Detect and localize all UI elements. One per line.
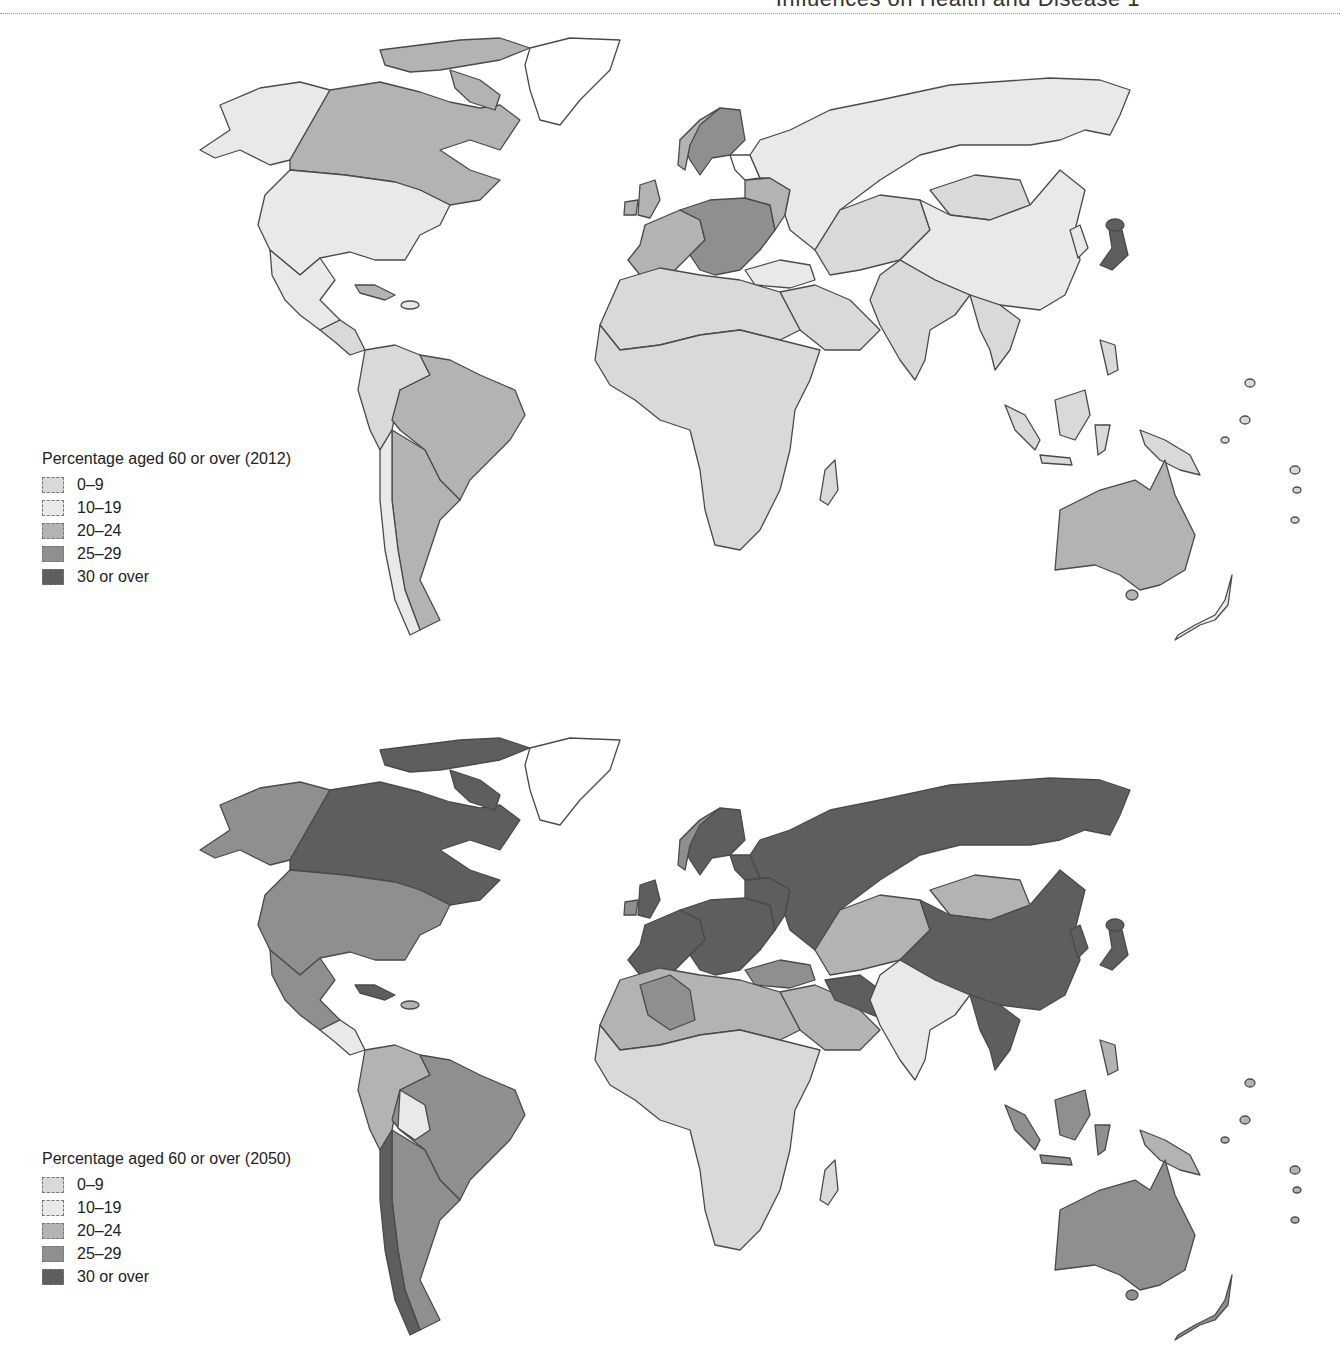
- region-borneo: [1055, 390, 1090, 440]
- region-sulawesi: [1095, 1125, 1110, 1155]
- legend-item-30-over: 30 or over: [42, 566, 291, 587]
- region-philippines: [1100, 1040, 1118, 1075]
- region-new-zealand: [1175, 575, 1232, 640]
- legend-swatch: [42, 546, 64, 562]
- legend-item-0-9: 0–9: [42, 1174, 291, 1195]
- region-hokkaido: [1106, 919, 1124, 931]
- legend-item-25-29: 25–29: [42, 543, 291, 564]
- region-caribbean-island: [401, 301, 419, 309]
- header-rule: [0, 13, 1340, 14]
- map-2012: Percentage aged 60 or over (2012) 0–9 10…: [0, 30, 1340, 690]
- region-hokkaido: [1106, 219, 1124, 231]
- region-cuba: [355, 985, 395, 1000]
- region-madagascar: [820, 460, 838, 505]
- legend-2050: Percentage aged 60 or over (2050) 0–9 10…: [42, 1150, 291, 1289]
- legend-label: 20–24: [77, 1222, 122, 1240]
- legend-swatch: [42, 500, 64, 516]
- legend-label: 10–19: [77, 499, 122, 517]
- page-header-title: Influences on Health and Disease 1: [776, 0, 1140, 12]
- legend-item-20-24: 20–24: [42, 1220, 291, 1241]
- region-pacific-island: [1245, 1079, 1255, 1087]
- region-australia: [1055, 1160, 1195, 1290]
- legend-title: Percentage aged 60 or over (2012): [42, 450, 291, 468]
- legend-label: 20–24: [77, 522, 122, 540]
- legend-label: 30 or over: [77, 568, 149, 586]
- legend-item-20-24: 20–24: [42, 520, 291, 541]
- region-greenland: [525, 738, 620, 825]
- region-pacific-island: [1291, 517, 1299, 523]
- legend-swatch: [42, 569, 64, 585]
- region-turkey: [745, 260, 815, 288]
- region-sub-saharan-africa: [595, 1025, 820, 1250]
- region-new-zealand: [1175, 1275, 1232, 1340]
- legend-label: 10–19: [77, 1199, 122, 1217]
- region-canada-arctic-islands: [380, 738, 530, 772]
- legend-item-30-over: 30 or over: [42, 1266, 291, 1287]
- region-new-guinea: [1140, 430, 1200, 475]
- region-uk: [638, 880, 660, 918]
- legend-swatch: [42, 1269, 64, 1285]
- region-sumatra: [1005, 405, 1040, 450]
- legend-swatch: [42, 1246, 64, 1262]
- region-tasmania: [1126, 590, 1138, 600]
- legend-swatch: [42, 1200, 64, 1216]
- region-pacific-island: [1221, 1137, 1229, 1143]
- region-pacific-island: [1290, 1166, 1300, 1174]
- region-java: [1040, 1155, 1072, 1165]
- region-pacific-island: [1290, 466, 1300, 474]
- region-pacific-island: [1221, 437, 1229, 443]
- region-australia: [1055, 460, 1195, 590]
- region-western-europe: [628, 210, 705, 275]
- region-java: [1040, 455, 1072, 465]
- region-tasmania: [1126, 1290, 1138, 1300]
- legend-item-10-19: 10–19: [42, 1197, 291, 1218]
- region-greenland: [525, 38, 620, 125]
- legend-item-25-29: 25–29: [42, 1243, 291, 1264]
- legend-label: 25–29: [77, 545, 122, 563]
- legend-swatch: [42, 1177, 64, 1193]
- legend-title: Percentage aged 60 or over (2050): [42, 1150, 291, 1168]
- legend-label: 0–9: [77, 1176, 104, 1194]
- region-sub-saharan-africa: [595, 325, 820, 550]
- map-2050: Percentage aged 60 or over (2050) 0–9 10…: [0, 730, 1340, 1348]
- legend-label: 25–29: [77, 1245, 122, 1263]
- region-pacific-island: [1240, 1116, 1250, 1124]
- region-western-europe: [628, 910, 705, 975]
- legend-item-0-9: 0–9: [42, 474, 291, 495]
- region-pacific-island: [1293, 1187, 1301, 1193]
- legend-label: 30 or over: [77, 1268, 149, 1286]
- region-borneo: [1055, 1090, 1090, 1140]
- region-pacific-island: [1240, 416, 1250, 424]
- region-pacific-island: [1293, 487, 1301, 493]
- region-madagascar: [820, 1160, 838, 1205]
- region-new-guinea: [1140, 1130, 1200, 1175]
- legend-swatch: [42, 1223, 64, 1239]
- region-uk: [638, 180, 660, 218]
- region-sulawesi: [1095, 425, 1110, 455]
- region-ireland: [624, 900, 638, 915]
- legend-2012: Percentage aged 60 or over (2012) 0–9 10…: [42, 450, 291, 589]
- region-philippines: [1100, 340, 1118, 375]
- region-caribbean-island: [401, 1001, 419, 1009]
- region-ireland: [624, 200, 638, 215]
- region-canada-arctic-islands: [380, 38, 530, 72]
- region-pacific-island: [1245, 379, 1255, 387]
- region-turkey: [745, 960, 815, 988]
- legend-item-10-19: 10–19: [42, 497, 291, 518]
- legend-label: 0–9: [77, 476, 104, 494]
- region-cuba: [355, 285, 395, 300]
- region-sumatra: [1005, 1105, 1040, 1150]
- region-middle-east: [780, 285, 880, 350]
- region-pacific-island: [1291, 1217, 1299, 1223]
- legend-swatch: [42, 523, 64, 539]
- legend-swatch: [42, 477, 64, 493]
